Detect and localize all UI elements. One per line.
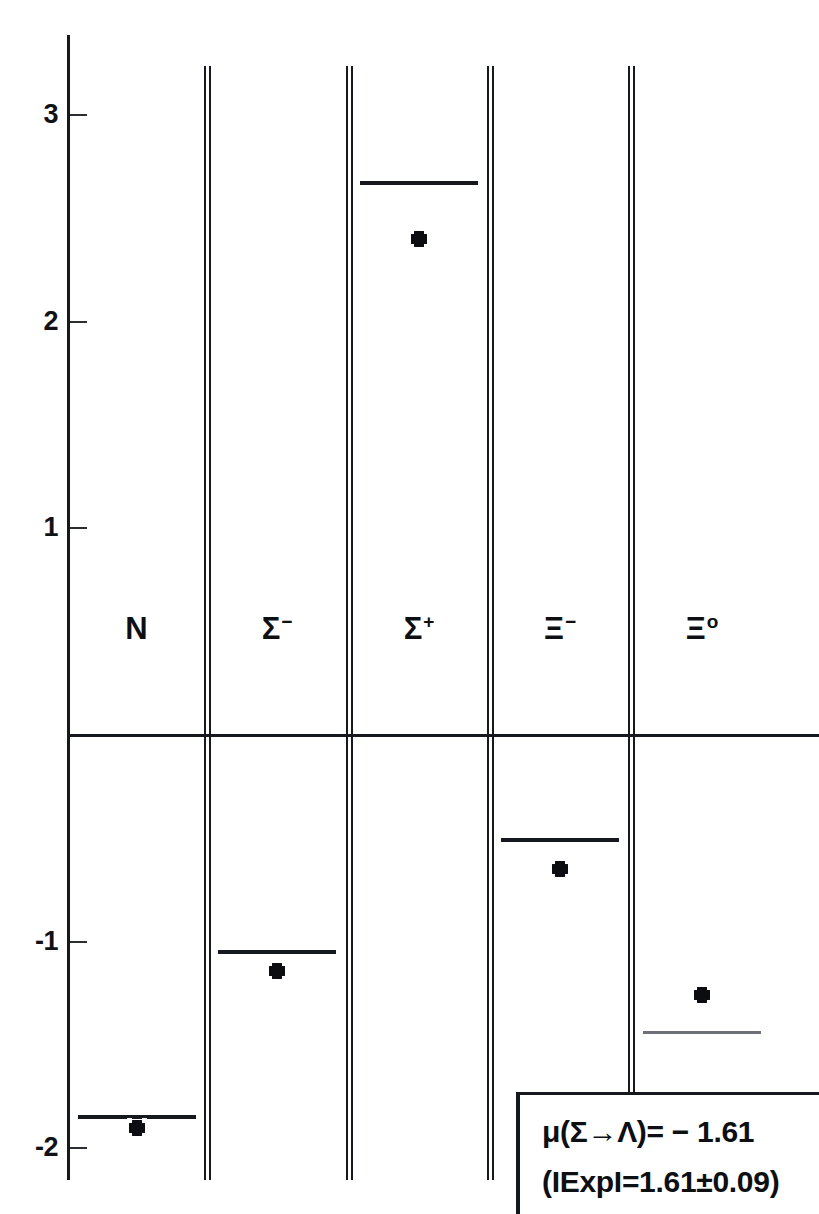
experiment-marker-sigma+ bbox=[409, 229, 429, 249]
y-tick-mark-4 bbox=[70, 1147, 87, 1149]
legend-experimental-value: (IExpI=1.61±0.09) bbox=[542, 1167, 779, 1197]
column-label-sigma-: Σ− bbox=[202, 612, 352, 644]
column-label-superscript: − bbox=[565, 611, 576, 632]
column-label-xi0: Ξo bbox=[627, 612, 777, 644]
marker-notch bbox=[692, 1000, 697, 1005]
experiment-marker-n bbox=[127, 1118, 147, 1138]
experiment-marker-xi- bbox=[550, 859, 570, 879]
marker-notch bbox=[424, 229, 429, 234]
marker-notch bbox=[565, 874, 570, 879]
experiment-marker-sigma- bbox=[267, 961, 287, 981]
column-label-superscript: − bbox=[281, 611, 292, 632]
legend-box: μ(Σ→Λ)= − 1.61 (IExpI=1.61±0.09) bbox=[516, 1092, 819, 1214]
y-axis-line bbox=[67, 35, 70, 1180]
marker-notch bbox=[267, 976, 272, 981]
marker-notch bbox=[142, 1118, 147, 1123]
marker-notch bbox=[127, 1118, 132, 1123]
marker-notch bbox=[565, 859, 570, 864]
theory-bar-xi- bbox=[501, 838, 619, 842]
column-label-base: Ξ bbox=[544, 611, 564, 646]
column-label-superscript: + bbox=[423, 611, 434, 632]
marker-notch bbox=[142, 1133, 147, 1138]
column-label-base: Σ bbox=[262, 611, 281, 646]
y-tick-label-2: 1 bbox=[2, 514, 58, 541]
theory-bar-sigma- bbox=[218, 950, 336, 954]
marker-notch bbox=[409, 229, 414, 234]
column-label-base: Σ bbox=[404, 611, 423, 646]
y-tick-label-4: -2 bbox=[2, 1134, 58, 1161]
y-tick-mark-1 bbox=[70, 321, 87, 323]
theory-bar-xi0 bbox=[643, 1031, 761, 1034]
marker-notch bbox=[550, 874, 555, 879]
magnetic-moment-chart: 321-1-2 NΣ−Σ+Ξ−Ξo μ(Σ→Λ)= − 1.61 (IExpI=… bbox=[0, 0, 819, 1214]
column-label-sigma+: Σ+ bbox=[344, 612, 494, 644]
marker-notch bbox=[282, 961, 287, 966]
y-tick-label-1: 2 bbox=[2, 308, 58, 335]
experiment-marker-xi0 bbox=[692, 985, 712, 1005]
marker-notch bbox=[692, 985, 697, 990]
y-tick-mark-2 bbox=[70, 527, 87, 529]
marker-notch bbox=[409, 244, 414, 249]
marker-notch bbox=[707, 1000, 712, 1005]
y-tick-mark-3 bbox=[70, 941, 87, 943]
y-tick-label-3: -1 bbox=[2, 928, 58, 955]
marker-notch bbox=[424, 244, 429, 249]
column-label-base: Ξ bbox=[686, 611, 706, 646]
marker-notch bbox=[707, 985, 712, 990]
legend-mu-value: μ(Σ→Λ)= − 1.61 bbox=[542, 1117, 754, 1147]
column-label-xi-: Ξ− bbox=[485, 612, 635, 644]
zero-baseline bbox=[67, 734, 819, 737]
marker-notch bbox=[550, 859, 555, 864]
marker-notch bbox=[282, 976, 287, 981]
y-tick-label-0: 3 bbox=[2, 101, 58, 128]
y-tick-mark-0 bbox=[70, 114, 87, 116]
column-label-superscript: o bbox=[707, 611, 719, 632]
marker-notch bbox=[267, 961, 272, 966]
column-label-base: N bbox=[125, 611, 147, 646]
column-label-n: N bbox=[62, 612, 212, 644]
marker-notch bbox=[127, 1133, 132, 1138]
theory-bar-sigma+ bbox=[360, 181, 478, 185]
